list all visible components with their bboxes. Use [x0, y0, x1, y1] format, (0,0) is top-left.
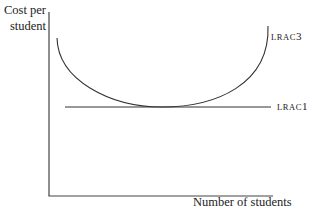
lrac3-label-num: 3 — [296, 30, 302, 42]
lrac3-label-text: LRAC — [271, 32, 296, 42]
lrac1-label: LRAC1 — [277, 100, 308, 112]
lrac3-curve — [57, 26, 268, 107]
lrac1-label-text: LRAC — [277, 102, 302, 112]
x-axis-label: Number of students — [193, 195, 292, 210]
lrac3-label: LRAC3 — [271, 30, 302, 42]
chart-canvas — [0, 0, 314, 214]
lrac1-label-num: 1 — [302, 100, 308, 112]
